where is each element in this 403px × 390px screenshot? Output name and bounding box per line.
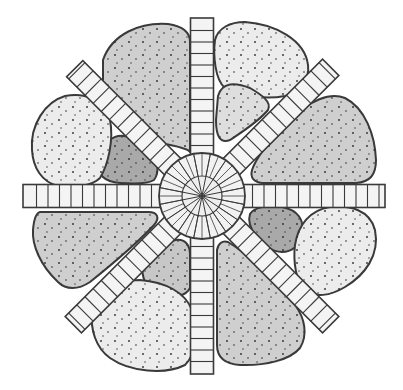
path-north: [191, 18, 214, 157]
garden-plan-drawing: [0, 0, 403, 390]
bed-east-lower-large: [294, 207, 376, 295]
garden-plan: Radial garden bed plan: [0, 0, 403, 390]
path-east: [241, 185, 385, 208]
path-west: [23, 185, 163, 208]
path-south: [191, 235, 214, 374]
central-paved-circle: [159, 153, 245, 239]
